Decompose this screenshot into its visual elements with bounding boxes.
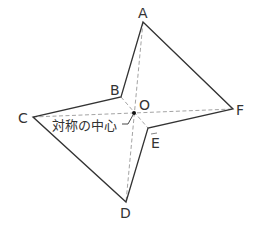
center-of-symmetry-label: 対称の中心 bbox=[52, 118, 117, 133]
point-symmetric-figure: A B C D E F O 対称の中心 bbox=[0, 0, 257, 237]
label-F: F bbox=[236, 102, 244, 118]
label-E: E bbox=[151, 135, 160, 151]
tick-mark-E bbox=[151, 133, 157, 134]
label-D: D bbox=[120, 205, 131, 221]
center-point-O bbox=[132, 111, 136, 115]
label-B: B bbox=[110, 82, 120, 98]
label-C: C bbox=[18, 110, 28, 126]
label-A: A bbox=[138, 5, 148, 21]
label-O: O bbox=[139, 97, 150, 113]
annotation-leader-line bbox=[122, 115, 133, 124]
